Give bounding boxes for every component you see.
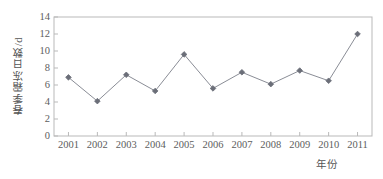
plot-frame (54, 17, 372, 136)
data-point-marker (268, 81, 274, 87)
data-point-marker (239, 69, 245, 75)
axis-ticks (54, 17, 358, 136)
plot-border (54, 17, 372, 136)
data-point-marker (355, 31, 361, 37)
line-plot (0, 0, 383, 179)
data-point-markers (66, 31, 361, 104)
chart-container: 春季霜冻日数/d 02468101214 2001200220032004200… (0, 0, 383, 179)
data-point-marker (326, 78, 332, 84)
data-point-marker (297, 68, 303, 74)
